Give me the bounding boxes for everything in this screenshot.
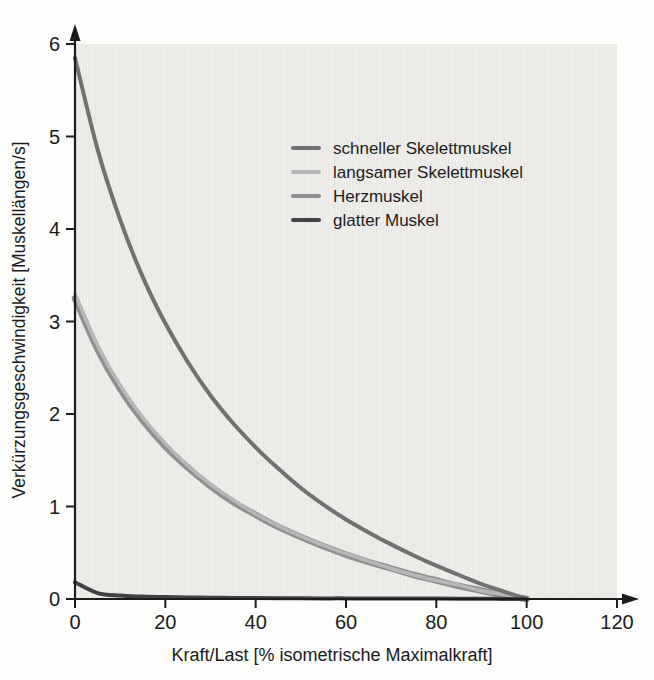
y-tick-label: 2 bbox=[49, 403, 60, 425]
plot-area bbox=[75, 44, 617, 599]
legend: schneller Skelettmuskellangsamer Skelett… bbox=[291, 136, 523, 232]
y-tick-label: 0 bbox=[49, 588, 60, 610]
legend-item: schneller Skelettmuskel bbox=[291, 136, 523, 160]
legend-swatch-herzmuskel-icon bbox=[291, 194, 321, 198]
y-tick-label: 6 bbox=[49, 33, 60, 55]
y-axis-label: Verkürzungsgeschwindigkeit [Muskellängen… bbox=[9, 142, 30, 499]
legend-label: schneller Skelettmuskel bbox=[333, 140, 512, 157]
x-axis-label: Kraft/Last [% isometrische Maximalkraft] bbox=[171, 645, 492, 666]
x-tick-label: 80 bbox=[425, 611, 447, 633]
x-tick-label: 0 bbox=[69, 611, 80, 633]
legend-swatch-glatter-muskel-icon bbox=[291, 218, 321, 222]
force-velocity-chart: 0123456020406080100120 bbox=[0, 0, 654, 680]
legend-label: langsamer Skelettmuskel bbox=[333, 164, 523, 181]
legend-label: Herzmuskel bbox=[333, 188, 423, 205]
y-tick-label: 4 bbox=[49, 218, 60, 240]
legend-swatch-schneller-skelettmuskel-icon bbox=[291, 146, 321, 150]
figure: 0123456020406080100120 schneller Skelett… bbox=[0, 0, 654, 680]
y-tick-label: 1 bbox=[49, 496, 60, 518]
y-axis-arrow-icon bbox=[70, 24, 81, 41]
legend-item: glatter Muskel bbox=[291, 208, 523, 232]
legend-label: glatter Muskel bbox=[333, 212, 439, 229]
x-tick-label: 100 bbox=[510, 611, 543, 633]
x-tick-label: 20 bbox=[154, 611, 176, 633]
x-axis-arrow-icon bbox=[622, 594, 639, 605]
y-tick-label: 3 bbox=[49, 311, 60, 333]
x-tick-label: 120 bbox=[600, 611, 633, 633]
x-tick-label: 60 bbox=[335, 611, 357, 633]
legend-item: Herzmuskel bbox=[291, 184, 523, 208]
plot-background bbox=[75, 44, 617, 599]
x-tick-label: 40 bbox=[245, 611, 267, 633]
legend-swatch-langsamer-skelettmuskel-icon bbox=[291, 170, 321, 174]
legend-item: langsamer Skelettmuskel bbox=[291, 160, 523, 184]
y-tick-label: 5 bbox=[49, 126, 60, 148]
